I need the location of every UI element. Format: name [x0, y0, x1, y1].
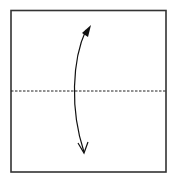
origami-diagram [0, 0, 175, 183]
